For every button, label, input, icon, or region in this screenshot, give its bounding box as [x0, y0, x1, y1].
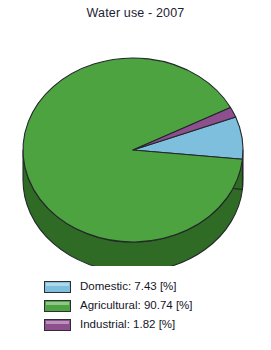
legend-label-industrial: Industrial: 1.82 [%] [80, 319, 175, 331]
legend-item-industrial[interactable]: Industrial: 1.82 [%] [44, 315, 244, 334]
legend-item-agricultural[interactable]: Agricultural: 90.74 [%] [44, 296, 244, 315]
pie-plot-area [0, 26, 271, 266]
chart-title: Water use - 2007 [0, 6, 271, 20]
legend-label-agricultural: Agricultural: 90.74 [%] [80, 300, 193, 312]
legend-item-domestic[interactable]: Domestic: 7.43 [%] [44, 277, 244, 296]
pie-chart-figure: Water use - 2007 Domestic: 7.43 [%] Agri… [0, 0, 271, 350]
legend-swatch-agricultural [44, 300, 71, 312]
legend-swatch-industrial [44, 319, 71, 331]
pie-3d-graphic [0, 26, 271, 266]
legend-swatch-domestic [44, 281, 71, 293]
legend-label-domestic: Domestic: 7.43 [%] [80, 281, 177, 293]
pie-slices-group [23, 58, 243, 266]
chart-legend: Domestic: 7.43 [%] Agricultural: 90.74 [… [44, 277, 244, 334]
